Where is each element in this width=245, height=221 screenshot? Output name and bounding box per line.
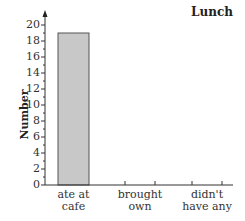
y-tick-label: 20 [20, 19, 40, 31]
x-category-label: broughtown [110, 189, 170, 213]
x-axis-ticks [125, 181, 222, 185]
x-category-label: ate atcafe [44, 189, 104, 213]
y-tick-label: 6 [20, 131, 40, 143]
x-category-label: didn'thave any [177, 189, 237, 213]
y-tick-label: 18 [20, 35, 40, 47]
y-tick-label: 10 [20, 99, 40, 111]
y-tick-label: 4 [20, 147, 40, 159]
y-tick-label: 8 [20, 115, 40, 127]
y-axis-ticks [41, 25, 45, 185]
y-tick-label: 2 [20, 163, 40, 175]
bars [58, 33, 89, 185]
y-tick-label: 16 [20, 51, 40, 63]
bar-chart: Lunch Number 02468101214161820 ate atcaf… [0, 0, 245, 221]
y-axis-arrow-icon [43, 10, 48, 17]
y-tick-label: 0 [20, 179, 40, 191]
y-tick-label: 12 [20, 83, 40, 95]
bar [58, 33, 89, 185]
y-tick-label: 14 [20, 67, 40, 79]
